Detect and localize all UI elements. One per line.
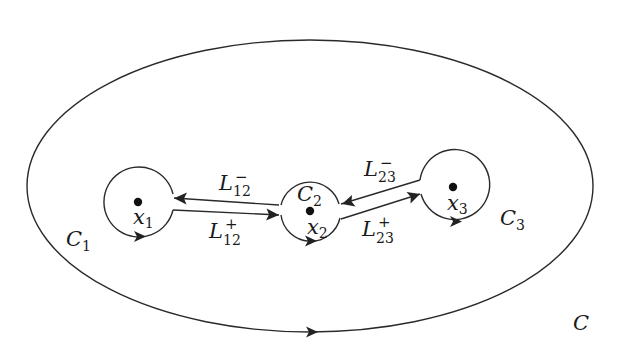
label-x3: x3 <box>447 191 468 217</box>
label-C: C <box>573 311 589 335</box>
label-C1: C1 <box>66 227 91 254</box>
label-L12-plus: L + 12 <box>208 215 241 248</box>
svg-text:12: 12 <box>233 183 251 199</box>
label-x2: x2 <box>307 215 328 241</box>
label-C2: C2 <box>297 182 322 209</box>
svg-text:+: + <box>378 213 391 231</box>
circle-C3 <box>420 150 490 227</box>
point-x3-dot <box>449 183 457 191</box>
svg-text:+: + <box>225 215 238 233</box>
svg-text:23: 23 <box>376 230 394 246</box>
circle-C3-arrow-icon <box>450 216 462 227</box>
edge-L12-minus-line <box>174 198 279 205</box>
contour-diagram: C C1 C2 C3 x1 x2 x3 L − 12 L + 12 L − 23… <box>0 0 630 349</box>
svg-text:12: 12 <box>223 232 241 248</box>
label-L23-minus: L − 23 <box>363 154 396 185</box>
label-L12-minus: L − 12 <box>218 168 251 199</box>
svg-text:L: L <box>361 217 376 241</box>
label-x1: x1 <box>133 205 154 231</box>
label-L23-plus: L + 23 <box>361 213 394 246</box>
svg-text:L: L <box>218 171 233 195</box>
svg-text:L: L <box>208 219 223 243</box>
label-C3: C3 <box>500 206 525 233</box>
svg-text:23: 23 <box>378 169 396 185</box>
svg-text:L: L <box>363 157 378 181</box>
